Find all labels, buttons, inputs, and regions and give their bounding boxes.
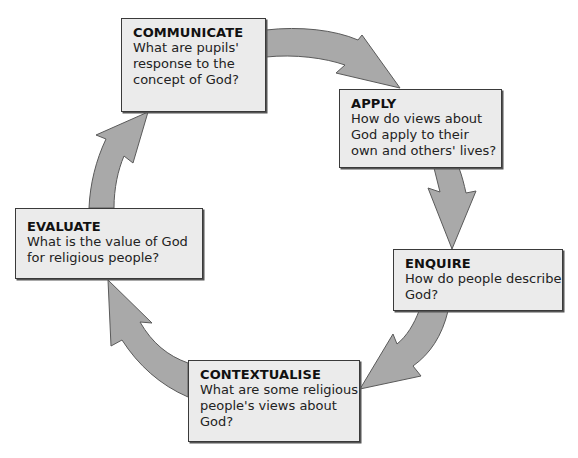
cycle-diagram: COMMUNICATE What are pupils' response to… bbox=[0, 0, 578, 458]
stage-question: What is the value of God for religious p… bbox=[27, 234, 202, 266]
stage-question: How do views about God apply to their ow… bbox=[351, 111, 501, 159]
arrow-enquire-to-contextualise bbox=[360, 311, 448, 389]
arrow-contextualise-to-evaluate bbox=[108, 280, 188, 397]
stage-title: CONTEXTUALISE bbox=[200, 367, 359, 382]
stage-question: What are some religious people's views a… bbox=[200, 382, 359, 430]
arrow-apply-to-enquire bbox=[428, 168, 476, 249]
stage-question: How do people describe God? bbox=[405, 271, 562, 303]
stage-title: ENQUIRE bbox=[405, 256, 562, 271]
stage-contextualise: CONTEXTUALISE What are some religious pe… bbox=[188, 360, 360, 442]
stage-communicate: COMMUNICATE What are pupils' response to… bbox=[121, 18, 266, 112]
stage-title: COMMUNICATE bbox=[133, 25, 265, 40]
stage-apply: APPLY How do views about God apply to th… bbox=[339, 89, 502, 168]
stage-evaluate: EVALUATE What is the value of God for re… bbox=[15, 208, 203, 279]
arrow-communicate-to-apply bbox=[266, 28, 400, 88]
stage-question: What are pupils' response to the concept… bbox=[133, 40, 265, 88]
stage-enquire: ENQUIRE How do people describe God? bbox=[393, 249, 563, 311]
arrow-evaluate-to-communicate bbox=[89, 112, 148, 208]
stage-title: EVALUATE bbox=[27, 219, 202, 234]
stage-title: APPLY bbox=[351, 96, 501, 111]
